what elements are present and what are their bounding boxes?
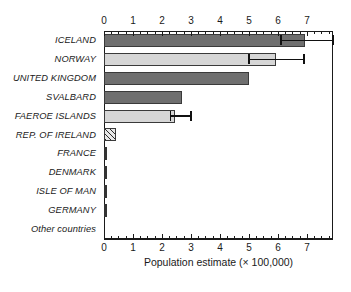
x-axis-minor-tick xyxy=(292,31,293,34)
category-label: ISLE OF MAN xyxy=(0,186,96,196)
bar-faeroe-islands xyxy=(104,110,175,123)
bar-row xyxy=(104,88,333,107)
x-axis-minor-tick xyxy=(227,236,228,239)
bar-row xyxy=(104,163,333,182)
x-axis-minor-tick xyxy=(329,236,330,239)
bar-svalbard xyxy=(104,91,182,104)
error-bar-cap xyxy=(280,35,281,45)
x-axis-minor-tick xyxy=(198,31,199,34)
x-axis-minor-tick xyxy=(242,236,243,239)
x-axis-major-tick xyxy=(220,234,221,239)
x-axis-major-tick xyxy=(191,234,192,239)
x-axis-tick-label: 5 xyxy=(239,242,259,253)
x-axis-major-tick xyxy=(307,31,308,36)
x-axis-minor-tick xyxy=(169,236,170,239)
x-axis-minor-tick xyxy=(176,31,177,34)
x-axis-minor-tick xyxy=(140,31,141,34)
x-axis-major-tick xyxy=(249,234,250,239)
x-axis-minor-tick xyxy=(271,236,272,239)
error-bar-cap xyxy=(170,111,171,121)
x-axis-minor-tick xyxy=(111,31,112,34)
x-axis-title: Population estimate (× 100,000) xyxy=(104,256,333,268)
category-label: NORWAY xyxy=(0,54,96,64)
x-axis-minor-tick xyxy=(176,236,177,239)
category-label: FRANCE xyxy=(0,148,96,158)
bar-row xyxy=(104,107,333,126)
x-axis-tick-label: 5 xyxy=(239,15,259,26)
x-axis-major-tick xyxy=(133,31,134,36)
x-axis-bottom-line xyxy=(104,239,333,240)
error-bar-line xyxy=(281,40,333,41)
x-axis-major-tick xyxy=(249,31,250,36)
x-axis-minor-tick xyxy=(300,236,301,239)
x-axis-tick-label: 3 xyxy=(181,15,201,26)
bar-row xyxy=(104,144,333,163)
x-axis-minor-tick xyxy=(285,236,286,239)
bar-rep-of-ireland xyxy=(104,128,116,141)
bar-denmark xyxy=(104,166,107,179)
bar-isle-of-man xyxy=(104,185,107,198)
category-label: ICELAND xyxy=(0,35,96,45)
x-axis-minor-tick xyxy=(263,236,264,239)
x-axis-minor-tick xyxy=(321,31,322,34)
bar-united-kingdom xyxy=(104,72,249,85)
x-axis-minor-tick xyxy=(242,31,243,34)
x-axis-minor-tick xyxy=(271,31,272,34)
x-axis-bottom: 01234567 xyxy=(104,239,333,240)
bar-iceland xyxy=(104,34,305,47)
x-axis-minor-tick xyxy=(300,31,301,34)
x-axis-minor-tick xyxy=(140,236,141,239)
category-label: REP. OF IRELAND xyxy=(0,130,96,140)
x-axis-minor-tick xyxy=(213,236,214,239)
error-bar-cap xyxy=(248,54,249,64)
x-axis-minor-tick xyxy=(184,236,185,239)
bar-row xyxy=(104,126,333,145)
x-axis-minor-tick xyxy=(126,31,127,34)
x-axis-minor-tick xyxy=(256,236,257,239)
x-axis-minor-tick xyxy=(169,31,170,34)
x-axis-minor-tick xyxy=(147,31,148,34)
x-axis-minor-tick xyxy=(184,31,185,34)
error-bar-cap xyxy=(332,35,333,45)
bar-row xyxy=(104,182,333,201)
x-axis-minor-tick xyxy=(213,31,214,34)
x-axis-minor-tick xyxy=(234,236,235,239)
x-axis-tick-label: 1 xyxy=(123,15,143,26)
x-axis-tick-label: 4 xyxy=(210,15,230,26)
x-axis-tick-label: 6 xyxy=(268,242,288,253)
x-axis-minor-tick xyxy=(118,31,119,34)
x-axis-minor-tick xyxy=(198,236,199,239)
x-axis-tick-label: 1 xyxy=(123,242,143,253)
x-axis-major-tick xyxy=(104,234,105,239)
x-axis-tick-label: 0 xyxy=(94,15,114,26)
x-axis-tick-label: 0 xyxy=(94,242,114,253)
x-axis-top: 01234567 xyxy=(104,31,333,32)
bar-row xyxy=(104,220,333,239)
x-axis-minor-tick xyxy=(155,236,156,239)
bars-layer xyxy=(104,31,333,239)
bar-row xyxy=(104,201,333,220)
x-axis-major-tick xyxy=(162,31,163,36)
category-label: SVALBARD xyxy=(0,92,96,102)
x-axis-tick-label: 7 xyxy=(297,242,317,253)
x-axis-tick-label: 4 xyxy=(210,242,230,253)
bar-germany xyxy=(104,204,107,217)
category-label: FAEROE ISLANDS xyxy=(0,111,96,121)
x-axis-minor-tick xyxy=(321,236,322,239)
x-axis-minor-tick xyxy=(118,236,119,239)
x-axis-minor-tick xyxy=(314,236,315,239)
x-axis-minor-tick xyxy=(256,31,257,34)
x-axis-tick-label: 7 xyxy=(297,15,317,26)
x-axis-top-line xyxy=(104,31,333,32)
x-axis-major-tick xyxy=(133,234,134,239)
x-axis-tick-label: 2 xyxy=(152,242,172,253)
x-axis-tick-label: 2 xyxy=(152,15,172,26)
error-bar-line xyxy=(249,59,304,60)
x-axis-minor-tick xyxy=(155,31,156,34)
x-axis-major-tick xyxy=(278,31,279,36)
x-axis-major-tick xyxy=(278,234,279,239)
category-label: UNITED KINGDOM xyxy=(0,73,96,83)
x-axis-major-tick xyxy=(104,31,105,36)
x-axis-major-tick xyxy=(307,234,308,239)
category-label: GERMANY xyxy=(0,205,96,215)
